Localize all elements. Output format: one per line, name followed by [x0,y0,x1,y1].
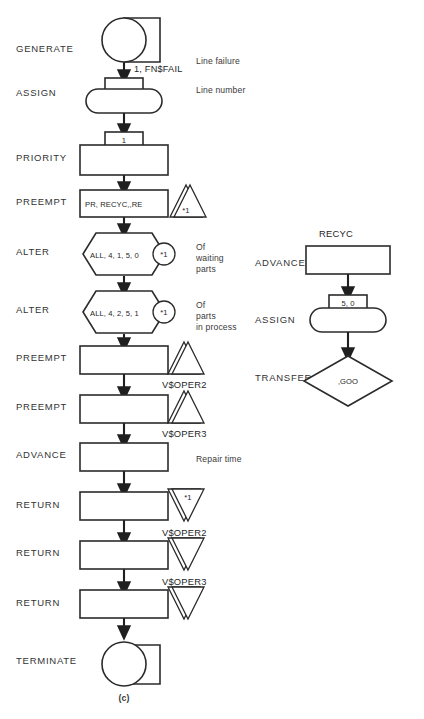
annotation-line-failure: Line failure [196,56,240,66]
alter-2-operand: ALL, 4, 2, 5, 1 [90,309,139,318]
recyc-title: RECYC [319,228,353,239]
label-assign: ASSIGN [16,87,56,98]
generate-operand: 1, FN$FAIL [134,64,182,74]
terminate-circle [102,642,146,686]
alter-2-annotation-line-1: Of [196,300,206,310]
block-terminate[interactable] [102,642,160,686]
block-return-1[interactable]: *1 V$OPER2 [80,489,207,538]
triangle-down-double-icon-return-3 [168,587,204,619]
label-assign-recyc: ASSIGN [255,314,295,325]
preempt-3-rect [80,395,168,423]
label-alter-2: ALTER [16,304,50,315]
label-priority: PRIORITY [16,152,67,163]
triangle-up-double-icon-preempt-3 [168,391,204,423]
block-preempt-1[interactable]: PR, RECYC,,RE *1 [80,185,206,217]
preempt-3-below-text: V$OPER3 [162,428,207,439]
label-preempt-2: PREEMPT [16,352,67,363]
triangle-down-double-icon-return-2 [168,538,204,570]
label-return-2: RETURN [16,547,60,558]
generate-circle [102,18,146,62]
figure-caption: (c) [119,693,130,703]
preempt-2-rect [80,346,168,374]
label-terminate: TERMINATE [16,655,77,666]
return-1-attachment-text: *1 [184,493,191,502]
block-return-3[interactable] [80,587,204,619]
block-alter-1[interactable]: ALL, 4, 1, 5, 0 *1 Of waiting parts [83,233,224,275]
return-1-below-text: V$OPER2 [162,527,207,538]
block-alter-2[interactable]: ALL, 4, 2, 5, 1 *1 Of parts in process [83,291,237,333]
assign-recyc-stadium [310,308,386,332]
label-advance: ADVANCE [16,449,66,460]
alter-1-annotation-line-2: waiting [195,253,224,263]
advance-recyc-rect [306,246,390,274]
label-advance-recyc: ADVANCE [255,257,305,268]
block-assign[interactable] [86,78,162,113]
return-2-below-text: V$OPER3 [162,576,207,587]
label-return-1: RETURN [16,499,60,510]
triangle-up-double-icon-preempt-2 [168,342,204,374]
label-preempt-3: PREEMPT [16,401,67,412]
return-1-rect [80,492,168,520]
block-return-2[interactable]: V$OPER3 [80,538,207,587]
block-label-column: GENERATE ASSIGN PRIORITY PREEMPT ALTER A… [16,43,77,666]
sub-flow-recyc: RECYC ADVANCE ASSIGN TRANSFER 5, 0 ,GOO [255,228,392,406]
preempt-1-operand: PR, RECYC,,RE [85,200,142,209]
return-2-rect [80,541,168,569]
advance-rect [80,443,168,471]
block-preempt-2[interactable]: V$OPER2 [80,342,207,390]
alter-2-annotation-line-2: parts [196,311,216,321]
preempt-1-attachment-text: *1 [182,206,189,215]
block-generate[interactable]: 1, FN$FAIL [102,18,182,74]
assign-stadium [86,89,162,113]
alter-2-annotation-line-3: in process [196,322,237,332]
block-assign-recyc[interactable]: 5, 0 [310,295,386,332]
priority-rect [80,145,168,175]
priority-top-text: 1 [122,136,126,145]
preempt-2-below-text: V$OPER2 [162,379,207,390]
alter-1-annotation-line-1: Of [196,242,206,252]
label-generate: GENERATE [16,43,74,54]
annotation-line-number: Line number [196,85,245,95]
label-preempt-1: PREEMPT [16,196,67,207]
alter-2-attachment-text: *1 [160,308,167,317]
transfer-recyc-operand: ,GOO [338,377,358,386]
alter-1-attachment-text: *1 [160,250,167,259]
alter-1-annotation-line-3: parts [196,264,216,274]
block-advance-recyc[interactable] [306,246,390,274]
return-3-rect [80,590,168,618]
block-advance[interactable] [80,443,168,471]
label-alter-1: ALTER [16,246,50,257]
block-transfer-recyc[interactable]: ,GOO [304,356,392,406]
alter-1-operand: ALL, 4, 1, 5, 0 [90,251,139,260]
assign-recyc-top-text: 5, 0 [341,299,354,308]
annotation-repair-time: Repair time [196,454,242,464]
label-return-3: RETURN [16,597,60,608]
block-priority[interactable]: 1 [80,132,168,175]
gpss-block-diagram: GENERATE ASSIGN PRIORITY PREEMPT ALTER A… [0,0,424,719]
block-preempt-3[interactable]: V$OPER3 [80,391,207,439]
